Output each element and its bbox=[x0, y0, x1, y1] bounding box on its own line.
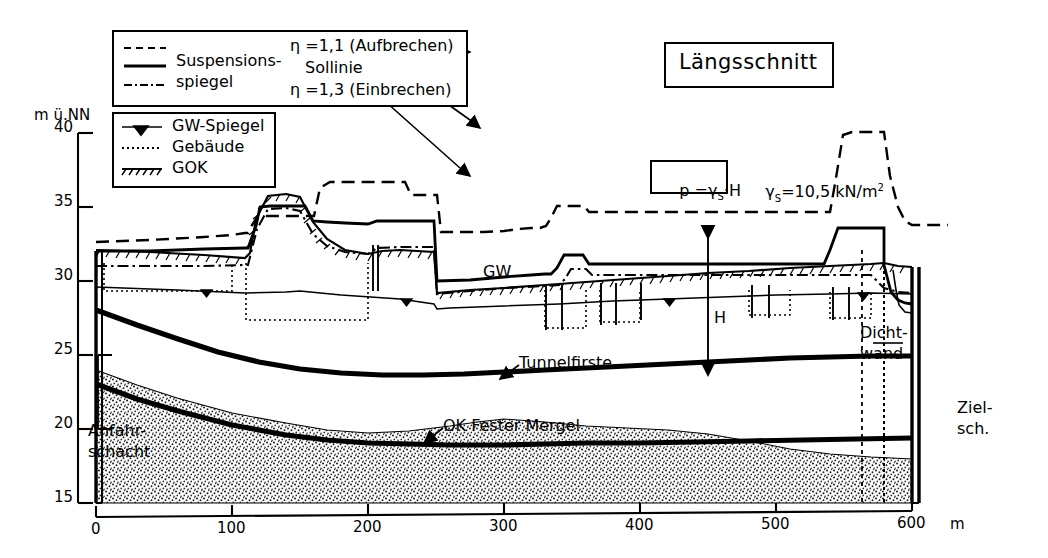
legend-entry-eta-1-3: η =1,3 (Einbrechen) bbox=[290, 82, 452, 99]
gamma-symbol: γ bbox=[765, 182, 774, 201]
annotation-gw: GW bbox=[483, 264, 511, 281]
x-tick-400: 400 bbox=[625, 518, 654, 534]
annotation-anfahrschacht-line2: schacht bbox=[88, 444, 150, 461]
annotation-h: H bbox=[714, 310, 726, 327]
y-tick-35: 35 bbox=[54, 194, 73, 210]
gamma-unit-exponent: 2 bbox=[878, 182, 884, 193]
x-tick-0: 0 bbox=[91, 522, 101, 538]
y-tick-25: 25 bbox=[54, 342, 73, 358]
annotation-dichtwand-line2: wand bbox=[860, 346, 903, 363]
gamma-value: =10,5 kN/m bbox=[781, 182, 877, 201]
building-walls bbox=[373, 245, 849, 330]
firm-marl-body bbox=[96, 370, 912, 503]
legend-entry-gebaeude: Gebäude bbox=[172, 139, 244, 156]
x-tick-600: 600 bbox=[897, 516, 926, 532]
legend-entry-sollinie: Sollinie bbox=[305, 60, 363, 77]
page-title: Längsschnitt bbox=[679, 51, 817, 73]
formula-expression: p =γS·H bbox=[659, 166, 741, 219]
legend-entry-eta-1-1: η =1,1 (Aufbrechen) bbox=[290, 38, 454, 55]
legend-suspension-group-line1: Suspensions- bbox=[176, 53, 282, 70]
y-tick-20: 20 bbox=[54, 416, 73, 432]
y-tick-40: 40 bbox=[54, 120, 73, 136]
x-tick-300: 300 bbox=[489, 519, 518, 535]
annotation-ok-fester-mergel: OK Fester Mergel bbox=[443, 418, 580, 435]
annotation-zielschacht-line2: sch. bbox=[957, 421, 989, 438]
formula-p-gamma: p =γ bbox=[679, 181, 717, 200]
x-tick-500: 500 bbox=[761, 517, 790, 533]
annotation-anfahrschacht-line1: Anfahr- bbox=[88, 423, 146, 440]
gamma-value-expression: γS=10,5 kN/m2 bbox=[745, 166, 884, 221]
y-tick-30: 30 bbox=[54, 268, 73, 284]
tunnel-crown-line bbox=[96, 310, 912, 375]
curve-eta-1-3-einbrechen bbox=[96, 208, 912, 294]
annotation-tunnelfirste: Tunnelfirste bbox=[519, 355, 612, 372]
legend-suspension-group-line2: spiegel bbox=[176, 74, 233, 91]
annotation-zielschacht-line1: Ziel- bbox=[957, 400, 992, 417]
legend-entry-gw-spiegel: GW-Spiegel bbox=[172, 118, 264, 135]
diagram-root: m ü.NN 40 35 30 25 20 15 0 100 200 300 4… bbox=[0, 0, 1048, 558]
x-tick-100: 100 bbox=[217, 521, 246, 537]
x-axis-unit: m bbox=[950, 517, 965, 533]
annotation-dichtwand-line1: Dicht- bbox=[860, 325, 908, 342]
leader-lines bbox=[378, 52, 903, 443]
x-tick-200: 200 bbox=[353, 520, 382, 536]
y-tick-15: 15 bbox=[54, 490, 73, 506]
formula-tail: ·H bbox=[724, 181, 741, 200]
legend-entry-gok: GOK bbox=[172, 160, 207, 177]
